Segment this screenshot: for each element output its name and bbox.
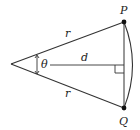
label-d: d: [81, 51, 88, 64]
label-theta: θ: [41, 58, 48, 71]
label-q: Q: [119, 115, 128, 128]
label-p: P: [119, 4, 128, 17]
right-angle-marker: [115, 65, 124, 73]
point-p-dot: [122, 20, 127, 25]
radius-bottom-line: [11, 64, 124, 108]
label-r-top: r: [65, 27, 71, 40]
diagram-svg: P Q r r d θ: [0, 0, 140, 130]
angle-arrow-icon: [35, 55, 39, 74]
label-r-bottom: r: [65, 87, 71, 100]
point-q-dot: [122, 106, 127, 111]
sector-diagram: P Q r r d θ: [0, 0, 140, 130]
arc-pq: [124, 22, 133, 108]
